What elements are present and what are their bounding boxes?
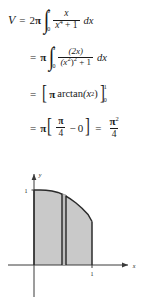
pi-over-four-fraction: π 4 (56, 117, 65, 139)
antiderivative-expression: π arctan (x2) (48, 84, 99, 103)
fraction-numerator: π (56, 117, 65, 127)
result-exponent: 2 (115, 115, 118, 122)
integral-sign-group: ∫ 1 0 (43, 8, 50, 32)
equals-sign: = (19, 14, 25, 26)
differential-dx: dx (84, 15, 94, 26)
minus-sign: − (69, 122, 75, 134)
fraction-numerator: x (62, 9, 70, 19)
volume-variable: V (8, 13, 15, 28)
equals-sign: = (30, 88, 36, 100)
denominator-tail: + 1 (63, 20, 78, 30)
figure-svg: 1 1 y x (0, 152, 145, 307)
bracket-contents: π 4 − 0 (53, 117, 84, 139)
integral-sign-group: ∫ 1 0 (48, 45, 55, 69)
pi-symbol: π (49, 88, 55, 100)
fraction-denominator: (x2)2 + 1 (58, 57, 93, 68)
integrand-fraction: x x4 + 1 (53, 9, 79, 31)
fraction-denominator: 4 (56, 127, 65, 138)
bracket-right: ] (85, 117, 90, 139)
grouping-bracket-group: [ π 4 − 0 ] (46, 117, 91, 139)
bracket-left: [ (47, 117, 52, 139)
denominator-tail: + 1 (77, 57, 91, 67)
second-equals-sign: = (95, 122, 101, 134)
x-axis-tick-label: 1 (91, 271, 94, 277)
pi-symbol: π (35, 14, 41, 26)
equation-line-4: = π [ π 4 − 0 ] = π2 4 (26, 116, 123, 140)
zero-term: 0 (78, 122, 84, 134)
worked-solution-block: V = 2 π ∫ 1 0 x x4 + 1 dx = π ∫ 1 0 (2x) (0, 0, 145, 152)
y-axis-label: y (38, 172, 42, 178)
differential-dx: dx (97, 52, 107, 63)
x-axis-label: x (132, 263, 136, 269)
arctan-argument-tail: ) (94, 88, 98, 99)
y-axis-arrowhead (32, 174, 37, 180)
equals-sign: = (30, 122, 36, 134)
integral-glyph: ∫ (44, 11, 49, 30)
arctan-argument-base: (x (83, 88, 91, 99)
final-result-fraction: π2 4 (107, 116, 120, 140)
result-denominator: 4 (110, 128, 119, 139)
result-numerator: π2 (107, 116, 120, 128)
integrand-fraction: (2x) (x2)2 + 1 (58, 47, 93, 68)
fraction-denominator: x4 + 1 (53, 20, 79, 31)
bracket-left: [ (42, 84, 47, 103)
pi-symbol: π (40, 51, 46, 63)
equation-line-2: = π ∫ 1 0 (2x) (x2)2 + 1 dx (26, 45, 107, 69)
integral-glyph: ∫ (49, 48, 54, 67)
y-axis-tick-label: 1 (25, 188, 28, 194)
evaluation-bracket-group: [ π arctan (x2) ] 1 0 (41, 84, 107, 103)
equation-line-3: = [ π arctan (x2) ] 1 0 (26, 84, 107, 103)
equals-sign: = (30, 51, 36, 63)
bracket-right: ] (100, 84, 105, 103)
arctan-function-name: arctan (57, 88, 83, 99)
x-axis-arrowhead (122, 263, 128, 268)
region-figure: 1 1 y x (0, 152, 145, 307)
equation-line-1: V = 2 π ∫ 1 0 x x4 + 1 dx (8, 8, 93, 32)
